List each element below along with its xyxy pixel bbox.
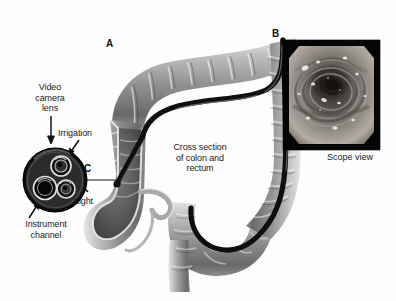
light-port [57, 180, 75, 198]
transverse-colon [112, 38, 296, 130]
label-light: Light [74, 196, 114, 207]
ascending-colon-cecum [84, 120, 173, 251]
colonoscopy-figure: A B C Video camera lens Irrigation Light… [0, 0, 396, 301]
video-camera-lens-port [51, 156, 71, 176]
label-cross-section: Cross section of colon and rectum [160, 142, 240, 174]
label-video-camera-lens: Video camera lens [12, 82, 88, 114]
scope-view-photo [283, 40, 380, 150]
arrow-video-camera-lens [48, 116, 55, 144]
caption-scope-view: Scope view [327, 152, 373, 162]
panel-letter-a: A [106, 38, 113, 49]
panel-letter-c: C [84, 163, 91, 174]
label-irrigation: Irrigation [58, 128, 114, 139]
panel-letter-b: B [272, 28, 279, 39]
instrument-channel-port [34, 177, 57, 200]
label-instrument-channel: Instrument channel [0, 219, 92, 240]
